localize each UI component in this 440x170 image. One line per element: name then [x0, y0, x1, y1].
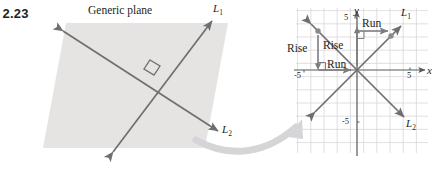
point-L2 — [315, 28, 320, 33]
rise-arrow-L2-head-icon — [315, 63, 321, 70]
coordinate-grid-panel: x y 5 -5 5 -5 L1 L2 Run Rise Rise Run — [270, 0, 440, 170]
y-tick-5-label: 5 — [344, 12, 348, 22]
generic-plane-caption: Generic plane — [88, 4, 152, 16]
y-tick-neg5-label: -5 — [342, 116, 349, 126]
coordinate-grid-svg — [270, 0, 440, 170]
point-L1 — [388, 33, 393, 38]
generic-plane-panel: Generic plane L1 L2 — [0, 0, 270, 170]
grid-line-L1-label: L1 — [401, 6, 411, 21]
rise-label-L1: Rise — [323, 39, 343, 51]
rise-arrow-L1-head-icon — [354, 27, 360, 34]
run-label-L2: Run — [327, 58, 346, 70]
run-label-L1: Run — [362, 17, 381, 29]
rise-label-L2: Rise — [287, 42, 307, 54]
left-line-L1-label: L1 — [213, 2, 223, 17]
x-tick-5-label: 5 — [407, 70, 411, 80]
y-axis-label: y — [354, 4, 359, 16]
plane-parallelogram — [43, 23, 228, 148]
generic-plane-svg — [0, 0, 270, 170]
grid-line-L2-label: L2 — [406, 117, 416, 132]
x-tick-neg5-label: -5 — [294, 70, 301, 80]
left-line-L2-label: L2 — [222, 123, 232, 138]
x-axis-label: x — [427, 64, 432, 76]
